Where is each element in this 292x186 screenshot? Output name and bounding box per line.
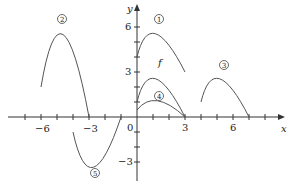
svg-text:4: 4 [157, 93, 162, 101]
y-axis-arrow-icon [134, 4, 140, 11]
label-f: f [157, 57, 164, 68]
x-axis-label: x [281, 123, 287, 134]
label-3: 3 [220, 61, 229, 70]
label-4: 4 [155, 92, 164, 101]
origin-label: 0 [127, 122, 133, 133]
svg-text:f: f [157, 57, 164, 68]
svg-text:5: 5 [93, 170, 97, 178]
x-axis-arrow-icon [278, 114, 285, 120]
curve-3 [201, 78, 249, 117]
y-axis-label: y [126, 3, 133, 14]
label-2: 2 [58, 15, 67, 24]
svg-text:3: 3 [222, 62, 226, 70]
x-tick-label: 6 [230, 122, 236, 133]
x-tick-label: −3 [83, 123, 98, 134]
y-tick-label: −3 [118, 156, 133, 167]
y-tick-label: 3 [125, 66, 131, 77]
x-tick-label: −6 [35, 123, 50, 134]
curve-2 [41, 34, 89, 117]
x-tick-label: 3 [182, 122, 188, 133]
label-1: 1 [155, 15, 164, 24]
transformations-graph: −6 −3 0 3 6 x 6 3 −3 y f 1 2 3 4 5 [0, 0, 292, 186]
label-5: 5 [91, 169, 100, 178]
svg-text:2: 2 [60, 16, 64, 24]
y-tick-label: 6 [125, 21, 131, 32]
svg-text:1: 1 [157, 16, 161, 24]
